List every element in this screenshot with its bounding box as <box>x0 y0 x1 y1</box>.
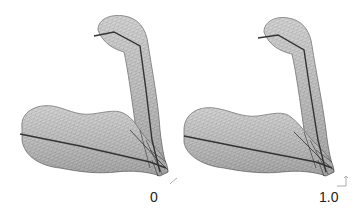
arm-mesh-figure: 0 <box>0 0 360 217</box>
arm-mesh-1 <box>180 0 360 217</box>
arm-mesh-0 <box>0 0 180 217</box>
coordinate-axes-icon <box>337 176 348 186</box>
panel-activation-0: 0 <box>0 0 180 217</box>
coordinate-axes-icon <box>170 178 177 184</box>
activation-label: 0 <box>150 190 158 204</box>
activation-label: 1.0 <box>319 190 338 204</box>
panel-activation-1: 1.0 <box>180 0 360 217</box>
